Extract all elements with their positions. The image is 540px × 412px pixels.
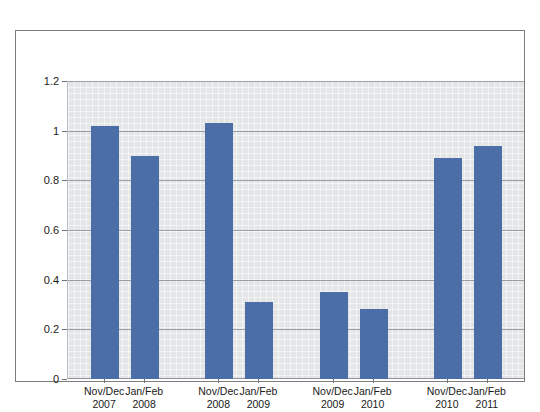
x-tick-label-line2: 2009: [239, 398, 277, 411]
x-tick-label-line2: 2008: [198, 398, 238, 411]
y-tick-label: 0.4: [15, 274, 59, 285]
x-tick-label-line1: Jan/Feb: [468, 385, 506, 397]
x-tick-label: Nov/Dec2007: [84, 385, 124, 411]
x-tick-label-line1: Jan/Feb: [125, 385, 163, 397]
bar: [434, 158, 462, 379]
bar: [320, 292, 348, 379]
x-tick-label: Nov/Dec2010: [427, 385, 467, 411]
bar: [91, 126, 119, 379]
x-tick-label-line2: 2011: [468, 398, 506, 411]
y-tick-label: 0: [15, 374, 59, 385]
bar: [245, 302, 273, 379]
gridline-1: [68, 131, 524, 132]
y-tick-mark: [62, 230, 67, 231]
y-tick-mark: [62, 280, 67, 281]
x-tick-label-line1: Nov/Dec: [427, 385, 467, 397]
x-tick-label-line2: 2007: [84, 398, 124, 411]
x-tick-mark: [447, 379, 448, 383]
x-tick-mark: [218, 379, 219, 383]
y-tick-label: 1: [15, 125, 59, 136]
plot-area: [67, 81, 524, 379]
y-tick-label: 0.6: [15, 225, 59, 236]
x-tick-mark: [373, 379, 374, 383]
x-tick-label-line1: Nov/Dec: [84, 385, 124, 397]
x-tick-mark: [104, 379, 105, 383]
y-tick-mark: [62, 329, 67, 330]
chart-frame: 00.20.40.60.811.2 Nov/Dec2007Jan/Feb2008…: [15, 30, 525, 382]
gridline-1.2: [68, 81, 524, 82]
x-tick-mark: [258, 379, 259, 383]
y-tick-mark: [62, 180, 67, 181]
x-tick-label-line2: 2010: [354, 398, 392, 411]
x-tick-mark: [333, 379, 334, 383]
x-tick-label-line2: 2008: [125, 398, 163, 411]
x-tick-label: Nov/Dec2009: [312, 385, 352, 411]
bar: [205, 123, 233, 379]
x-tick-mark: [144, 379, 145, 383]
x-tick-mark: [487, 379, 488, 383]
x-tick-label-line1: Nov/Dec: [312, 385, 352, 397]
x-tick-label: Nov/Dec2008: [198, 385, 238, 411]
x-tick-label-line1: Jan/Feb: [354, 385, 392, 397]
x-tick-label-line2: 2010: [427, 398, 467, 411]
x-tick-label: Jan/Feb2008: [125, 385, 163, 411]
x-tick-label: Jan/Feb2009: [239, 385, 277, 411]
y-tick-label: 1.2: [15, 76, 59, 87]
y-tick-mark: [62, 81, 67, 82]
bar: [360, 309, 388, 379]
x-tick-label: Jan/Feb2011: [468, 385, 506, 411]
x-tick-label-line1: Jan/Feb: [239, 385, 277, 397]
y-tick-label: 0.8: [15, 175, 59, 186]
x-tick-label-line1: Nov/Dec: [198, 385, 238, 397]
x-tick-label-line2: 2009: [312, 398, 352, 411]
x-tick-label: Jan/Feb2010: [354, 385, 392, 411]
y-tick-mark: [62, 131, 67, 132]
x-axis: Nov/Dec2007Jan/Feb2008Nov/Dec2008Jan/Feb…: [67, 379, 524, 412]
bar: [474, 146, 502, 379]
y-tick-label: 0.2: [15, 324, 59, 335]
bar: [131, 156, 159, 380]
